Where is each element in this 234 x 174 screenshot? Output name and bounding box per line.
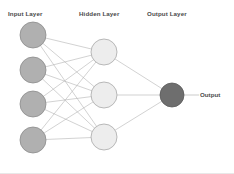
hidden-node-3[interactable] xyxy=(91,124,117,150)
input-node-1[interactable] xyxy=(20,22,46,48)
input-layer-label: Input Layer xyxy=(8,11,42,17)
network-graph xyxy=(0,0,234,174)
input-node-2[interactable] xyxy=(20,57,46,83)
nodes-group xyxy=(20,22,184,153)
hidden-node-2[interactable] xyxy=(91,82,117,108)
hidden-layer-label: Hidden Layer xyxy=(79,11,119,17)
input-node-4[interactable] xyxy=(20,127,46,153)
output-node-1[interactable] xyxy=(160,83,184,107)
input-node-3[interactable] xyxy=(20,91,46,117)
hidden-node-1[interactable] xyxy=(91,39,117,65)
output-layer-label: Output Layer xyxy=(147,11,187,17)
neural-network-diagram: Input Layer Hidden Layer Output Layer Ou… xyxy=(0,0,234,174)
output-signal-label: Output xyxy=(200,92,220,98)
